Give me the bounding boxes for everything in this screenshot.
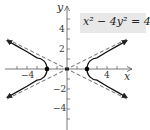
equation-label: x² − 4y² = 4 <box>83 15 150 28</box>
y-tick-label-neg2: −2 <box>53 84 66 94</box>
vertex-left <box>45 67 50 72</box>
x-tick-label-4: 4 <box>104 70 110 80</box>
y-tick-label-neg4: −4 <box>53 103 66 113</box>
x-axis-label: x <box>124 70 130 83</box>
y-axis-label: y <box>57 1 63 14</box>
hyperbola-right-branch <box>87 41 127 70</box>
x-tick-label-neg4: −4 <box>21 70 34 80</box>
vertex-right <box>85 67 90 72</box>
y-tick-label-2: 2 <box>59 44 65 54</box>
center-point <box>65 68 69 71</box>
hyperbola-left-branch <box>7 41 47 70</box>
y-tick-label-4: 4 <box>59 24 65 34</box>
hyperbola-plot: x² − 4y² = 4 y x −4 4 4 2 −2 −4 <box>0 0 150 130</box>
